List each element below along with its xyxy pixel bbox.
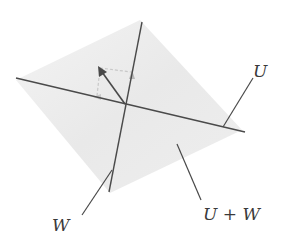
label-u-plus-w: U + W xyxy=(203,204,261,224)
label-w: W xyxy=(52,215,71,235)
subspace-diagram: U W U + W xyxy=(0,0,291,248)
label-u: U xyxy=(253,61,268,81)
leader-u xyxy=(223,78,253,127)
plane-u-plus-w xyxy=(16,20,242,193)
